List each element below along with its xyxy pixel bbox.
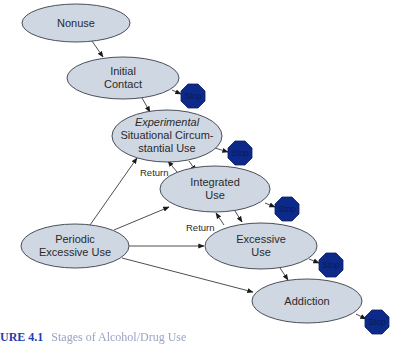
- edge-experimental-to-stop: [215, 148, 228, 152]
- stop-label: Stop: [184, 91, 202, 101]
- figure-caption-text: Stages of Alcohol/Drug Use: [51, 330, 186, 344]
- node-initial-contact-line2: Contact: [104, 78, 142, 90]
- node-addiction: Addiction: [252, 279, 362, 323]
- edge-excessive-return-integrated: [216, 213, 224, 225]
- node-experimental-line2: Situational Circum-: [121, 129, 214, 141]
- node-integrated-line2: Use: [205, 189, 225, 201]
- stop-sign-3: Stop: [275, 197, 299, 221]
- node-experimental: Experimental Situational Circum- stantia…: [112, 110, 222, 162]
- node-excessive-use: Excessive Use: [205, 223, 317, 269]
- node-integrated-use: Integrated Use: [160, 166, 270, 212]
- return-label-1: Return: [140, 167, 169, 178]
- return-label-2: Return: [186, 222, 215, 233]
- stop-label: Stop: [231, 148, 249, 158]
- edge-integrated-to-stop: [265, 203, 275, 207]
- node-nonuse-label: Nonuse: [57, 17, 95, 29]
- node-periodic-excessive-use: Periodic Excessive Use: [21, 224, 129, 268]
- edge-excessive-to-stop: [309, 259, 319, 263]
- node-initial-contact-line1: Initial: [110, 65, 136, 77]
- stop-label: Stop: [322, 260, 340, 270]
- node-integrated-line1: Integrated: [190, 176, 240, 188]
- edge-periodic-to-experimental: [90, 158, 137, 225]
- edge-addiction-to-stop: [356, 314, 366, 319]
- edge-integrated-return-experimental: [168, 161, 177, 172]
- node-nonuse: Nonuse: [22, 4, 130, 42]
- stop-sign-2: Stop: [228, 141, 252, 165]
- node-experimental-line3: stantial Use: [138, 142, 195, 154]
- node-excessive-line1: Excessive: [236, 233, 286, 245]
- edge-initial-to-experimental: [142, 98, 150, 112]
- stop-sign-4: Stop: [319, 253, 343, 277]
- edge-excessive-to-addiction: [280, 268, 288, 280]
- figure-caption: URE 4.1Stages of Alcohol/Drug Use: [0, 330, 186, 345]
- stages-diagram: Return Return Nonuse Initial Contact Exp…: [0, 0, 394, 345]
- edge-initial-to-stop: [172, 90, 181, 94]
- edge-integrated-to-excessive: [235, 211, 242, 222]
- node-periodic-line2: Excessive Use: [39, 246, 111, 258]
- stop-sign-1: Stop: [181, 84, 205, 108]
- stop-label: Stop: [368, 317, 386, 327]
- figure-caption-label: URE 4.1: [0, 330, 43, 344]
- stop-sign-5: Stop: [365, 310, 389, 334]
- edge-periodic-to-integrated: [114, 207, 169, 230]
- node-experimental-line1: Experimental: [135, 116, 200, 128]
- stop-label: Stop: [278, 204, 296, 214]
- edge-nonuse-to-initial: [92, 41, 103, 57]
- node-periodic-line1: Periodic: [55, 233, 95, 245]
- node-initial-contact: Initial Contact: [67, 57, 179, 99]
- node-addiction-label: Addiction: [284, 295, 329, 307]
- node-excessive-line2: Use: [251, 246, 271, 258]
